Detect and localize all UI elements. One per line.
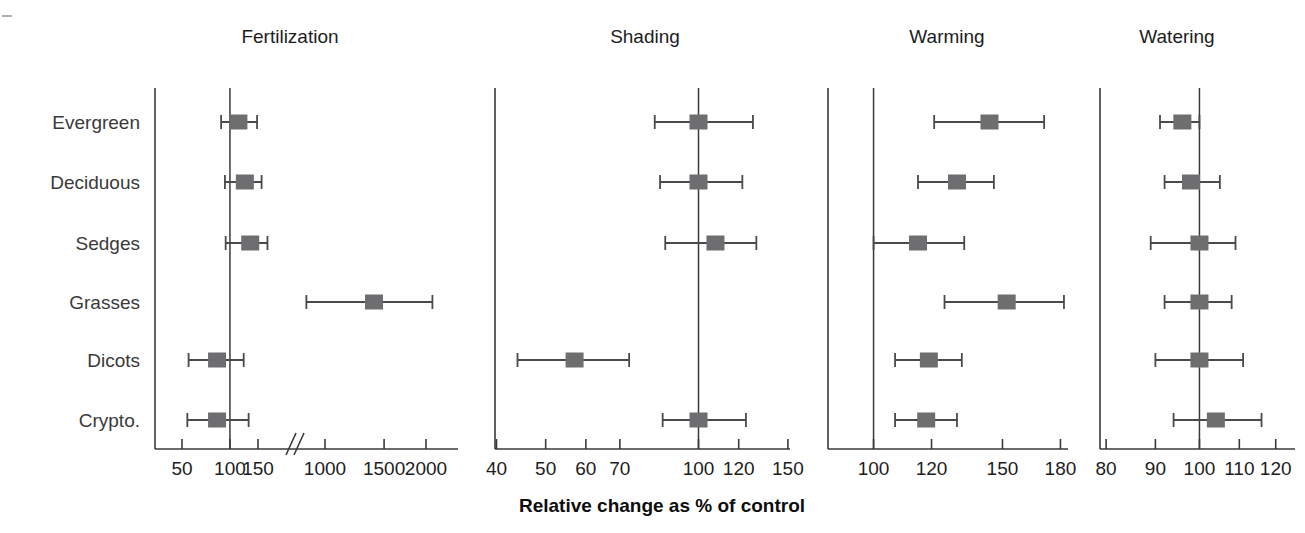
- category-label-deciduous: Deciduous: [50, 172, 140, 193]
- tick-label-shading-120: 120: [723, 458, 755, 479]
- tick-label-shading-60: 60: [575, 458, 596, 479]
- tick-label-shading-70: 70: [609, 458, 630, 479]
- datapoint-warming-crypto: [895, 413, 957, 428]
- category-label-sedges: Sedges: [76, 233, 140, 254]
- panel-title-warming: Warming: [909, 26, 984, 47]
- datapoint-warming-dicots: [895, 353, 962, 368]
- datapoint-watering-sedges: [1151, 236, 1236, 251]
- datapoint-fertilization-dicots: [189, 353, 244, 368]
- category-label-evergreen: Evergreen: [52, 112, 140, 133]
- tick-label-warming-120: 120: [916, 458, 948, 479]
- tick-label-warming-150: 150: [987, 458, 1019, 479]
- marker-square: [690, 115, 708, 130]
- axis-break-slash-2: [294, 433, 304, 455]
- datapoint-fertilization-sedges: [226, 236, 268, 251]
- marker-square: [1190, 295, 1208, 310]
- axis-break-slash-1: [286, 433, 296, 455]
- datapoint-warming-evergreen: [934, 115, 1044, 130]
- tick-label-watering-90: 90: [1145, 458, 1166, 479]
- forest-plot-figure: EvergreenDeciduousSedgesGrassesDicotsCry…: [0, 0, 1305, 533]
- panel-watering: Watering8090100110120: [1096, 26, 1295, 479]
- category-label-crypto: Crypto.: [79, 410, 140, 431]
- tick-label-fertilization-1500: 1500: [363, 458, 405, 479]
- marker-square: [917, 413, 935, 428]
- marker-square: [690, 175, 708, 190]
- tick-label-shading-100: 100: [683, 458, 715, 479]
- tick-label-watering-80: 80: [1096, 458, 1117, 479]
- marker-square: [229, 115, 247, 130]
- marker-square: [706, 236, 724, 251]
- datapoint-warming-grasses: [945, 295, 1064, 310]
- marker-square: [980, 115, 998, 130]
- tick-label-watering-120: 120: [1260, 458, 1292, 479]
- marker-square: [208, 353, 226, 368]
- datapoint-shading-sedges: [665, 236, 756, 251]
- datapoint-fertilization-evergreen: [221, 115, 257, 130]
- datapoint-watering-grasses: [1165, 295, 1232, 310]
- tick-label-fertilization-50: 50: [171, 458, 192, 479]
- marker-square: [208, 413, 226, 428]
- datapoint-warming-deciduous: [918, 175, 994, 190]
- tick-label-shading-50: 50: [535, 458, 556, 479]
- panel-warming: Warming100120150180: [828, 26, 1076, 479]
- marker-square: [236, 175, 254, 190]
- datapoint-shading-deciduous: [660, 175, 742, 190]
- panel-fertilization: Fertilization50100150100015002000: [155, 26, 458, 479]
- tick-label-fertilization-150: 150: [242, 458, 274, 479]
- category-label-grasses: Grasses: [69, 292, 140, 313]
- marker-square: [998, 295, 1016, 310]
- tick-label-fertilization-1000: 1000: [304, 458, 346, 479]
- tick-label-warming-100: 100: [858, 458, 890, 479]
- marker-square: [365, 295, 383, 310]
- marker-square: [948, 175, 966, 190]
- datapoint-fertilization-grasses: [306, 295, 432, 310]
- tick-label-watering-110: 110: [1224, 458, 1254, 479]
- datapoint-watering-evergreen: [1160, 115, 1199, 130]
- tick-label-fertilization-100: 100: [214, 458, 246, 479]
- datapoint-shading-dicots: [517, 353, 629, 368]
- marker-square: [1190, 353, 1208, 368]
- datapoint-watering-deciduous: [1165, 175, 1220, 190]
- tick-label-fertilization-2000: 2000: [405, 458, 447, 479]
- marker-square: [1207, 413, 1225, 428]
- category-label-dicots: Dicots: [87, 350, 140, 371]
- datapoint-watering-dicots: [1155, 353, 1243, 368]
- datapoint-shading-evergreen: [655, 115, 753, 130]
- marker-square: [909, 236, 927, 251]
- marker-square: [690, 413, 708, 428]
- marker-square: [1173, 115, 1191, 130]
- x-axis-title: Relative change as % of control: [519, 495, 805, 516]
- tick-label-shading-40: 40: [486, 458, 507, 479]
- marker-square: [1182, 175, 1200, 190]
- datapoint-warming-sedges: [874, 236, 965, 251]
- panel-shading: Shading40506070100120150: [486, 26, 804, 479]
- panel-title-watering: Watering: [1139, 26, 1214, 47]
- tick-label-watering-100: 100: [1184, 458, 1216, 479]
- datapoint-fertilization-crypto: [187, 413, 248, 428]
- marker-square: [241, 236, 259, 251]
- forest-plot-svg: EvergreenDeciduousSedgesGrassesDicotsCry…: [0, 0, 1305, 533]
- panel-title-fertilization: Fertilization: [241, 26, 338, 47]
- marker-square: [566, 353, 584, 368]
- tick-label-shading-150: 150: [772, 458, 804, 479]
- datapoint-shading-crypto: [663, 413, 746, 428]
- marker-square: [920, 353, 938, 368]
- datapoint-watering-crypto: [1174, 413, 1262, 428]
- panel-title-shading: Shading: [610, 26, 680, 47]
- tick-label-warming-180: 180: [1045, 458, 1077, 479]
- marker-square: [1190, 236, 1208, 251]
